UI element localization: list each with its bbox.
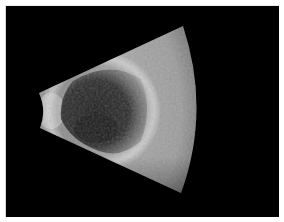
ultrasound-frame xyxy=(5,5,279,217)
ultrasound-sector xyxy=(6,6,279,217)
